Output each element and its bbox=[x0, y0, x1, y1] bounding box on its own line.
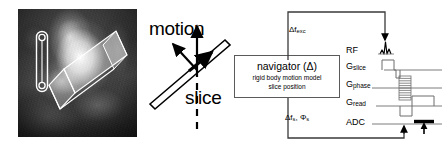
navigator-subtitle-model: rigid body motion model bbox=[235, 73, 339, 82]
pulse-sequence-waveforms bbox=[344, 0, 446, 146]
pulse-sequence-panel: RF Gslice Gphase Gread ADC bbox=[344, 0, 446, 146]
gslice-waveform bbox=[382, 60, 400, 78]
navigator-column-overlay bbox=[37, 32, 48, 92]
delta-fexc-label: Δfexc bbox=[289, 25, 306, 34]
navigator-subtitle-position: slice position bbox=[235, 82, 339, 91]
mr-image-panel bbox=[18, 9, 137, 137]
gphase-waveform bbox=[399, 76, 411, 100]
slice-plane-overlay bbox=[49, 31, 127, 109]
figure-root: motion slice navigator (Δ) rigid bbox=[0, 0, 446, 146]
navigator-title: navigator (Δ) bbox=[235, 60, 339, 73]
navigator-box[interactable]: navigator (Δ) rigid body motion model sl… bbox=[234, 55, 340, 98]
rf-sinc-pulse bbox=[378, 42, 394, 54]
mr-overlay-graphics bbox=[18, 9, 137, 137]
slice-slab bbox=[150, 40, 230, 109]
delta-fs-phis-label: Δfs, Φs bbox=[285, 113, 309, 122]
